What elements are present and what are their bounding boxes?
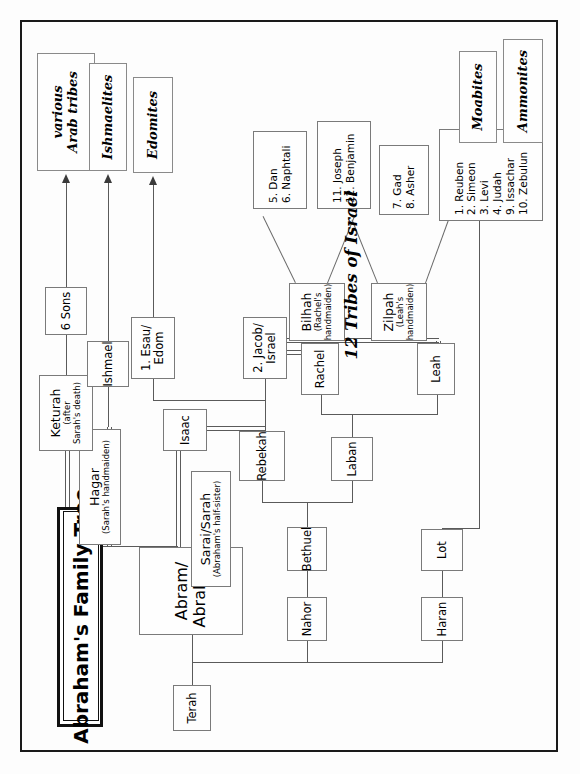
line-ishmael-out (108, 181, 109, 341)
tribes-zilpah-box[interactable]: 7. Gad 8. Asher (379, 145, 429, 215)
line-laban-bus (321, 414, 437, 415)
line-to-haran (442, 641, 443, 663)
node-rebekah[interactable]: Rebekah (239, 431, 285, 481)
node-nahor[interactable]: Nahor (287, 597, 327, 641)
line-esau-edom (153, 183, 154, 317)
terminal-label: Ammonites (516, 50, 531, 132)
node-bilhah-label: Bilhah (300, 292, 314, 331)
line-to-rebekah (262, 481, 263, 503)
line-terah-bus (192, 662, 442, 663)
node-lot[interactable]: Lot (421, 529, 463, 571)
terminal-label: Edomites (146, 91, 161, 159)
node-ishmael[interactable]: Ishmael (87, 341, 129, 387)
terminal-ammonites[interactable]: Ammonites (503, 39, 543, 143)
line-bethuel-bus (262, 502, 352, 503)
node-hagar-sub: (Sarah's handmaiden) (102, 440, 112, 534)
line-to-abraham (192, 635, 193, 663)
marriage-abraham-sarah (176, 495, 181, 547)
line-to-leah (437, 395, 438, 415)
arrow-edomites (149, 176, 157, 185)
node-esau-line2: Edom (153, 332, 166, 365)
node-ishmael-label: Ishmael (102, 341, 115, 386)
tribe-item: 7. Gad (391, 174, 404, 209)
node-jacob[interactable]: 2. Jacob/ Israel (243, 317, 287, 379)
node-bethuel-label: Bethuel (301, 527, 314, 571)
arrow-ishmaelites (104, 174, 112, 183)
node-zilpah[interactable]: Zilpah (Leah's handmaiden) (371, 283, 427, 341)
tribe-item: 6. Naphtali (280, 146, 293, 203)
node-jacob-line2: Israel (265, 332, 278, 363)
line-sarah-isaac (176, 451, 181, 495)
tribe-item: 10. Zebulun (517, 152, 530, 215)
family-tree-canvas: Abraham's Family Tree Terah Nahor Haran … (21, 21, 559, 753)
tribe-item: 3. Levi (478, 180, 491, 215)
node-nahor-label: Nahor (301, 602, 314, 637)
tribe-item: 5. Dan (267, 168, 280, 203)
node-bilhah[interactable]: Bilhah (Rachel's handmaiden) (289, 283, 345, 341)
node-lot-label: Lot (436, 541, 449, 559)
tribe-item: 8. Asher (404, 166, 417, 209)
tribe-item: 1. Reuben (453, 162, 466, 215)
terminal-arab-tribes[interactable]: various Arab tribes (37, 53, 95, 171)
node-leah-label: Leah (430, 355, 443, 383)
terminal-moabites[interactable]: Moabites (459, 51, 497, 143)
tribes-caption: 12 Tribes of Israel (342, 191, 361, 360)
line-isaac-children-out (265, 401, 266, 431)
line-to-laban (352, 481, 353, 503)
node-isaac-label: Isaac (179, 415, 192, 445)
node-rebekah-label: Rebekah (256, 431, 269, 481)
node-keturah-sub2: Sarah's death) (73, 382, 83, 444)
line-isaac-children-bus (153, 400, 266, 401)
line-nahor-bethuel (307, 571, 308, 597)
node-laban[interactable]: Laban (331, 437, 373, 481)
terminal-label: various (51, 85, 66, 138)
line-sons-arab (66, 181, 67, 287)
node-zilpah-label: Zilpah (382, 292, 396, 331)
node-haran-label: Haran (436, 602, 449, 637)
tribe-item: 9. Issachar (504, 158, 517, 215)
node-six-sons[interactable]: 6 Sons (45, 287, 87, 335)
line-haran-lot (442, 571, 443, 597)
node-six-sons-label: 6 Sons (60, 292, 73, 331)
node-laban-label: Laban (346, 441, 359, 476)
line-bethuel-out (307, 503, 308, 527)
node-bethuel[interactable]: Bethuel (287, 527, 327, 571)
terminal-label: Arab tribes (66, 71, 81, 152)
node-haran[interactable]: Haran (421, 597, 463, 641)
node-isaac[interactable]: Isaac (163, 409, 207, 451)
node-sarah[interactable]: Sarai/Sarah (Abraham's half-sister) (191, 471, 231, 587)
line-to-nahor (307, 641, 308, 663)
node-rachel[interactable]: Rachel (301, 343, 339, 395)
tribe-item: 2. Simeon (465, 162, 478, 215)
node-zilpah-sub2: handmaiden) (406, 284, 416, 341)
node-bilhah-sub2: handmaiden) (324, 284, 334, 341)
line-keturah-sons (66, 335, 67, 375)
line-terah-out (192, 663, 193, 685)
node-leah[interactable]: Leah (417, 343, 455, 395)
terminal-ishmaelites[interactable]: Ishmaelites (89, 63, 127, 171)
line-laban-out (352, 415, 353, 437)
line-hagar-ishmael (108, 387, 109, 427)
line-to-jacob (265, 379, 266, 401)
terminal-label: Ishmaelites (101, 75, 116, 160)
line-bilhah-dan (263, 216, 296, 283)
node-terah[interactable]: Terah (173, 685, 211, 731)
node-esau[interactable]: 1. Esau/ Edom (131, 317, 175, 379)
line-to-rachel (321, 395, 322, 415)
tribe-item: 4. Judah (491, 172, 504, 215)
tribes-bilhah-box[interactable]: 5. Dan 6. Naphtali (253, 131, 307, 209)
diagram-page: Abraham's Family Tree Terah Nahor Haran … (0, 0, 580, 774)
line-leah-reuben (425, 215, 451, 283)
node-abraham-line1: Abram/ (173, 562, 191, 620)
node-keturah[interactable]: Keturah (after Sarah's death) (39, 375, 93, 451)
terminal-label: Moabites (471, 63, 486, 130)
node-sarah-label: Sarai/Sarah (199, 493, 213, 565)
terminal-edomites[interactable]: Edomites (133, 77, 173, 173)
node-keturah-label: Keturah (49, 389, 63, 438)
node-sarah-sub: (Abraham's half-sister) (213, 481, 223, 578)
node-rachel-label: Rachel (314, 350, 327, 389)
arrow-arab-tribes (62, 174, 70, 183)
node-terah-label: Terah (186, 692, 199, 723)
node-hagar-label: Hagar (88, 468, 102, 506)
line-to-esau (153, 379, 154, 401)
